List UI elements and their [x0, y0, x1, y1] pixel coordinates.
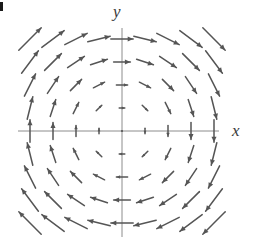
arrow-glyph [165, 148, 171, 159]
arrow-glyph [42, 31, 64, 48]
arrow-glyph [70, 79, 81, 90]
arrow-glyph [88, 35, 110, 42]
arrow-glyph [157, 33, 179, 44]
arrow-glyph [137, 197, 154, 203]
arrow-glyph [139, 82, 150, 88]
arrow-glyph [188, 146, 194, 163]
arrow-glyph [121, 130, 123, 132]
arrow-glyph [180, 215, 202, 232]
arrow-glyph [134, 220, 156, 227]
arrow-glyph [96, 151, 102, 157]
arrow-glyph [142, 105, 148, 111]
arrow-glyph [19, 28, 41, 50]
arrow-glyph [73, 148, 79, 159]
arrow-glyph [119, 153, 125, 156]
arrow-glyph [183, 54, 200, 71]
arrow-glyph [45, 54, 62, 71]
arrow-glyph [96, 105, 102, 111]
vector-field-plot [0, 0, 253, 241]
arrow-glyph [142, 151, 148, 157]
arrow-glyph [42, 215, 64, 232]
arrow-glyph [50, 146, 56, 163]
arrow-glyph [119, 107, 125, 110]
arrow-glyph [91, 197, 108, 203]
arrow-glyph [160, 56, 177, 67]
arrow-glyph [211, 97, 218, 119]
arrow-glyph [134, 36, 156, 43]
arrow-glyph [68, 56, 85, 67]
arrow-glyph [93, 82, 104, 88]
arrow-glyph [22, 51, 39, 73]
arrow-glyph [144, 128, 147, 134]
arrow-glyph [93, 174, 104, 180]
arrow-glyph [206, 189, 223, 211]
arrow-glyph [210, 143, 217, 165]
arrow-glyph [203, 28, 225, 50]
arrow-glyph [91, 59, 108, 65]
arrow-glyph [180, 31, 202, 48]
arrow-glyph [19, 212, 41, 234]
arrow-glyph [185, 169, 196, 186]
arrow-glyph [160, 194, 177, 205]
arrow-glyph [88, 219, 110, 226]
arrow-glyph [70, 171, 81, 182]
vector-field-figure: y x [0, 0, 253, 241]
arrow-glyph [183, 192, 200, 209]
arrow-glyph [27, 97, 34, 119]
arrow-glyph [188, 100, 194, 117]
arrow-glyph [157, 217, 179, 228]
arrow-glyph [65, 217, 87, 228]
arrow-glyph [165, 102, 171, 113]
arrow-glyph [137, 59, 154, 65]
arrow-glyph [73, 102, 79, 113]
x-axis-label: x [232, 122, 240, 139]
arrow-glyph [24, 166, 35, 188]
arrow-glyph [208, 166, 219, 188]
arrow-glyph [139, 174, 150, 180]
arrow-glyph [45, 192, 62, 209]
arrow-glyph [162, 171, 173, 182]
arrow-glyph [26, 143, 33, 165]
y-axis-label: y [113, 3, 121, 20]
arrow-glyph [47, 169, 58, 186]
arrow-glyph [162, 79, 173, 90]
arrow-glyph [24, 74, 35, 96]
arrow-glyph [65, 33, 87, 44]
arrow-glyph [50, 100, 56, 117]
arrow-glyph [68, 194, 85, 205]
arrow-glyph [98, 128, 101, 134]
arrow-glyph [22, 189, 39, 211]
arrow-glyph [206, 51, 223, 73]
arrow-glyph [185, 77, 196, 94]
arrow-glyph [47, 77, 58, 94]
arrow-glyph [208, 74, 219, 96]
arrow-glyph [203, 212, 225, 234]
